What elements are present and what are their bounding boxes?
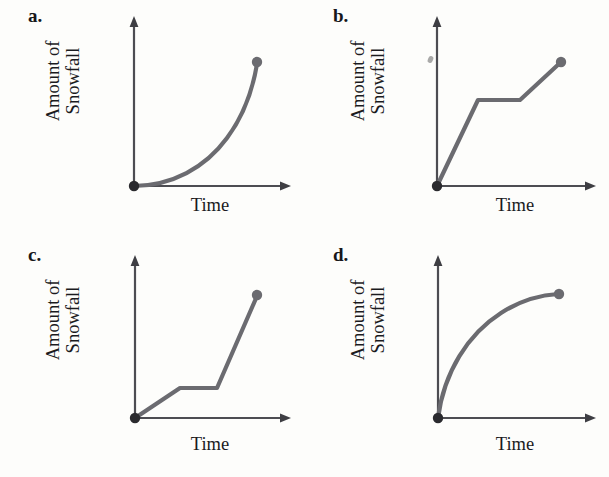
panel-a-axes xyxy=(130,16,291,191)
panel-a-x-axis-arrowhead xyxy=(280,181,291,190)
panel-b-curve xyxy=(437,62,561,186)
panel-c-endpoint-dot xyxy=(252,290,262,300)
panel-d-x-axis-arrowhead xyxy=(585,413,596,422)
panel-c-origin-dot xyxy=(130,413,140,423)
panel-a-curve xyxy=(134,64,257,186)
panel-d-curve xyxy=(438,294,558,418)
panel-b-endpoint-dot xyxy=(556,57,566,67)
panel-b: b. Amount of Snowfall Time xyxy=(305,0,609,238)
panel-a-origin-dot xyxy=(129,181,139,191)
panel-d-axes xyxy=(434,255,596,423)
panel-b-axes xyxy=(433,16,596,191)
panel-c: c. Amount of Snowfall Time xyxy=(0,239,304,477)
panel-a-x-axis-label: Time xyxy=(145,196,275,215)
panel-a-endpoint-dot xyxy=(252,57,262,67)
panel-c-curve xyxy=(135,296,257,418)
panel-b-origin-dot xyxy=(432,181,442,191)
panel-a: a. Amount of Snowfall Time xyxy=(0,0,304,238)
panel-c-x-axis-arrowhead xyxy=(280,413,291,422)
panel-d-x-axis-label: Time xyxy=(450,435,580,454)
snowfall-graph-figure: a. Amount of Snowfall Time b. Amount of … xyxy=(0,0,609,477)
panel-d: d. Amount of Snowfall Time xyxy=(305,239,609,477)
panel-a-y-axis-arrowhead xyxy=(130,16,139,27)
panel-b-y-axis-arrowhead xyxy=(433,16,442,27)
panel-d-origin-dot xyxy=(433,413,443,423)
panel-c-y-axis-arrowhead xyxy=(131,255,140,266)
panel-b-x-axis-arrowhead xyxy=(585,181,596,190)
panel-d-y-axis-arrowhead xyxy=(434,255,443,266)
panel-d-endpoint-dot xyxy=(554,289,564,299)
panel-c-axes xyxy=(131,255,291,423)
panel-c-x-axis-label: Time xyxy=(145,435,275,454)
panel-b-x-axis-label: Time xyxy=(450,196,580,215)
